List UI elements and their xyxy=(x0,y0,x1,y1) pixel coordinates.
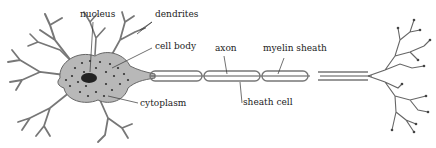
label-cytoplasm: cytoplasm xyxy=(140,99,186,108)
axon-graphic xyxy=(150,71,372,81)
label-cell-body: cell body xyxy=(155,42,196,51)
axon-terminals-graphic xyxy=(368,20,430,132)
label-axon: axon xyxy=(215,44,237,53)
cell-body-graphic xyxy=(58,53,155,103)
neuron-illustration xyxy=(0,0,436,148)
label-dendrites: dendrites xyxy=(155,10,198,19)
label-sheath-cell: sheath cell xyxy=(243,98,293,107)
neuron-diagram: nucleus dendrites cell body axon myelin … xyxy=(0,0,436,148)
label-nucleus: nucleus xyxy=(80,10,115,19)
label-myelin-sheath: myelin sheath xyxy=(263,44,327,53)
nucleus-graphic xyxy=(81,73,97,83)
